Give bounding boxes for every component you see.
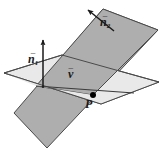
- label-v-text: v: [68, 67, 73, 81]
- label-normal-n1: –n1: [28, 51, 38, 67]
- label-n1-text: n: [28, 52, 35, 66]
- label-n2-subscript: 2: [107, 22, 111, 30]
- label-normal-n2: –n2: [100, 14, 110, 30]
- label-direction-v: –v: [68, 66, 73, 80]
- label-point-P: P: [85, 98, 92, 110]
- label-n2-text: n: [100, 15, 107, 29]
- label-n1-subscript: 1: [35, 59, 39, 67]
- planes-diagram-svg: [0, 0, 163, 159]
